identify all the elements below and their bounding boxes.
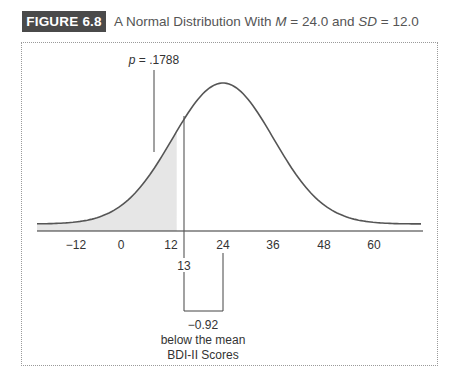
tick-label: 36 xyxy=(266,238,280,252)
tick-label: 0 xyxy=(118,238,125,252)
tick-label: −12 xyxy=(66,238,87,252)
p-value-label: p = .1788 xyxy=(128,53,180,67)
shaded-area xyxy=(37,131,177,231)
x-axis-title: BDI-II Scores xyxy=(167,348,238,362)
tick-label: 24 xyxy=(216,238,230,252)
z-score-label: −0.92 xyxy=(188,318,219,332)
x-tick-labels: −12 0 12 24 36 48 60 xyxy=(66,238,381,252)
tick-label: 48 xyxy=(317,238,331,252)
tick-label: 60 xyxy=(367,238,381,252)
normal-curve-chart: p = .1788 −12 0 12 24 36 48 60 13 −0.92 … xyxy=(0,0,450,376)
score-marker-label: 13 xyxy=(177,259,191,273)
normal-curve xyxy=(37,83,421,224)
z-desc-label: below the mean xyxy=(161,333,246,347)
tick-label: 12 xyxy=(164,238,178,252)
